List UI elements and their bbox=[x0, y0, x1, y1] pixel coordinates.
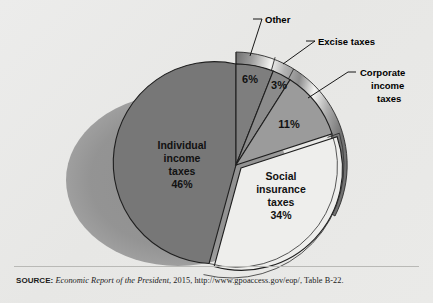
callout-label-corporate-income-taxes: Corporate income taxes bbox=[360, 67, 405, 104]
source-note: SOURCE: Economic Report of the President… bbox=[16, 276, 421, 285]
leader-line-excise-taxes bbox=[283, 41, 315, 64]
pie-chart: 6% 3% 11% Individual income taxes 46% So… bbox=[0, 0, 433, 303]
slice-label-line: Individual bbox=[157, 139, 206, 151]
source-rest: , 2015, http://www.gpoaccess.gov/eop/, T… bbox=[169, 276, 344, 285]
slice-value-social-insurance-taxes: 34% bbox=[270, 209, 292, 221]
source-divider bbox=[14, 266, 419, 267]
slice-value-corporate-income-taxes: 11% bbox=[278, 118, 300, 130]
slice-value-individual-income-taxes: 46% bbox=[171, 178, 193, 190]
slice-label-line: taxes bbox=[268, 196, 295, 208]
slice-value-excise-taxes: 3% bbox=[271, 79, 287, 91]
figure-panel: 6% 3% 11% Individual income taxes 46% So… bbox=[0, 0, 433, 303]
source-label: SOURCE: bbox=[16, 276, 53, 285]
slice-label-line: Social bbox=[266, 170, 297, 182]
slice-label-line: taxes bbox=[169, 165, 196, 177]
callout-label-other: Other bbox=[265, 14, 291, 25]
slice-label-line: insurance bbox=[256, 183, 306, 195]
leader-line-other bbox=[250, 19, 262, 56]
slice-value-other: 6% bbox=[242, 73, 258, 85]
source-title: Economic Report of the President bbox=[55, 276, 169, 285]
callout-label-line: Corporate bbox=[360, 67, 405, 78]
callout-label-line: taxes bbox=[377, 93, 401, 104]
callout-label-line: income bbox=[371, 80, 404, 91]
callout-label-excise-taxes: Excise taxes bbox=[318, 36, 375, 47]
slice-label-line: income bbox=[164, 152, 201, 164]
